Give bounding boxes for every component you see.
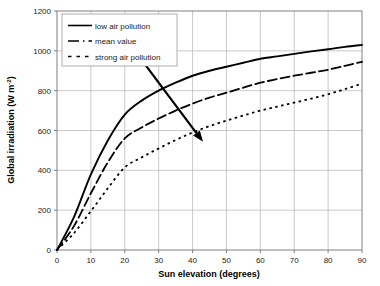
y-tick-label-600: 600 [38,127,52,136]
x-tick-label-70: 70 [290,256,299,265]
legend-label-mean-value: mean value [95,37,137,46]
x-axis-tick-labels: 0102030405060708090 [55,256,367,265]
legend-label-strong-air-pollution: strong air pollution [95,53,160,62]
chart-figure: 0102030405060708090 02004006008001000120… [0,0,380,286]
y-axis-tick-labels: 020040060080010001200 [33,7,51,255]
y-axis-title: Global irradiation (W m-2) [6,76,16,183]
y-tick-label-800: 800 [38,87,52,96]
chart-canvas: 0102030405060708090 02004006008001000120… [0,0,380,286]
x-axis-title: Sun elevation (degrees) [158,269,260,279]
legend-label-low-air-pollution: low air pollution [95,22,150,31]
y-tick-label-1200: 1200 [33,7,51,16]
chart-legend: low air pollution mean value strong air … [62,14,177,66]
x-tick-label-60: 60 [256,256,265,265]
x-tick-label-50: 50 [222,256,231,265]
x-tick-label-20: 20 [120,256,129,265]
y-axis-title-base: Global irradiation (W m [6,85,16,184]
y-tick-label-400: 400 [38,166,52,175]
x-tick-label-10: 10 [86,256,95,265]
x-tick-label-90: 90 [358,256,367,265]
y-axis-title-close: ) [6,76,16,79]
y-tick-label-0: 0 [47,246,52,255]
x-tick-label-30: 30 [154,256,163,265]
x-tick-label-80: 80 [324,256,333,265]
y-tick-label-1000: 1000 [33,47,51,56]
x-tick-label-40: 40 [188,256,197,265]
svg-text:Global irradiation (W m-2): Global irradiation (W m-2) [6,76,16,183]
x-tick-label-0: 0 [55,256,60,265]
y-tick-label-200: 200 [38,206,52,215]
